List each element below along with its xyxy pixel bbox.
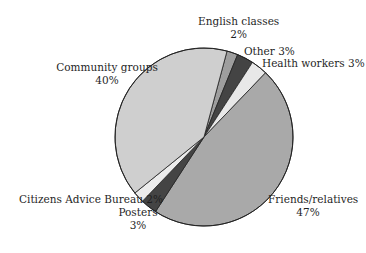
friends-relatives-pct: 47%: [268, 206, 348, 219]
community-groups-name: Community groups: [52, 61, 162, 74]
community-groups-pct: 40%: [52, 74, 162, 87]
posters-pct: 3%: [118, 219, 158, 232]
friends-relatives-name: Friends/relatives: [268, 193, 348, 206]
label-health-workers: Health workers 3%: [262, 57, 365, 70]
label-posters: Posters 3%: [118, 206, 158, 232]
label-friends-relatives: Friends/relatives 47%: [268, 193, 348, 219]
english-classes-name: English classes: [198, 15, 279, 28]
label-citizens-advice-bureau: Citizens Advice Bureau 2%: [19, 193, 163, 206]
posters-name: Posters: [118, 206, 158, 219]
label-community-groups: Community groups 40%: [52, 61, 162, 87]
english-classes-pct: 2%: [198, 28, 279, 41]
label-english-classes: English classes 2%: [198, 15, 279, 41]
